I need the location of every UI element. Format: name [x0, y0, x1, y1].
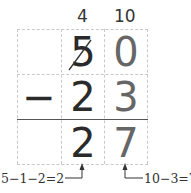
diagram-strokes — [0, 0, 191, 193]
tens-annotation: 5−1−2=2 — [1, 171, 64, 186]
arrow-up-icon — [80, 163, 85, 170]
arrow-up-icon — [123, 163, 128, 170]
strikethrough-mark — [69, 40, 91, 70]
ones-annotation: 10−3=7 — [144, 171, 191, 186]
